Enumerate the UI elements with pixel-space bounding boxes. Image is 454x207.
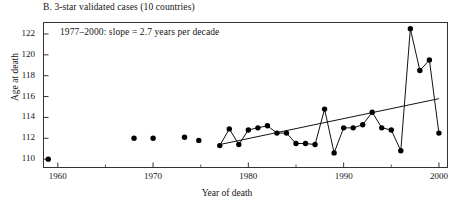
axis-ticks <box>44 34 439 168</box>
data-series-points <box>46 26 442 162</box>
axes-frame <box>44 23 448 168</box>
plot-area <box>0 0 454 207</box>
trend-line <box>220 99 439 145</box>
data-series-lines <box>220 29 439 153</box>
figure-panel-b: B. 3-star validated cases (10 countries)… <box>0 0 454 207</box>
